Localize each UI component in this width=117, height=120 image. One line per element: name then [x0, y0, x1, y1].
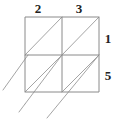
diagonal-line-2 — [25, 17, 62, 55]
diagonal-line-4 — [25, 55, 62, 104]
diagonal-line-6 — [62, 17, 99, 55]
diagonal-line-8 — [62, 55, 99, 92]
diagonal-line-1 — [3, 55, 28, 90]
label-right-upper: 1 — [101, 32, 115, 45]
lattice-svg — [0, 0, 117, 120]
diagonal-lines-group — [3, 17, 99, 118]
diagonal-line-3 — [19, 104, 25, 112]
diagonal-line-5 — [25, 55, 62, 92]
label-top-right: 3 — [70, 2, 88, 15]
label-right-lower: 5 — [101, 69, 115, 82]
label-top-left: 2 — [29, 2, 47, 15]
lattice-diagram: 2 3 1 5 — [0, 0, 117, 120]
